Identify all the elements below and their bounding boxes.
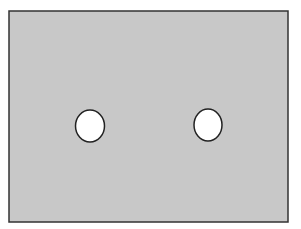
right-hole-ellipse (194, 109, 222, 141)
diagram-canvas (0, 0, 301, 229)
gray-panel (9, 11, 288, 222)
left-hole-ellipse (76, 110, 105, 142)
